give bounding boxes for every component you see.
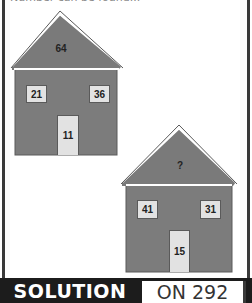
roof-number-unknown: ?: [169, 160, 191, 171]
window-right: 31: [200, 200, 221, 219]
window-left: 41: [137, 200, 158, 219]
door: 15: [169, 230, 190, 272]
house-right: ? 41 31 15: [0, 0, 252, 280]
solution-label: SOLUTION: [0, 278, 140, 303]
house-right-shape: [0, 0, 252, 280]
solution-page-ref: ON 292: [140, 281, 246, 303]
